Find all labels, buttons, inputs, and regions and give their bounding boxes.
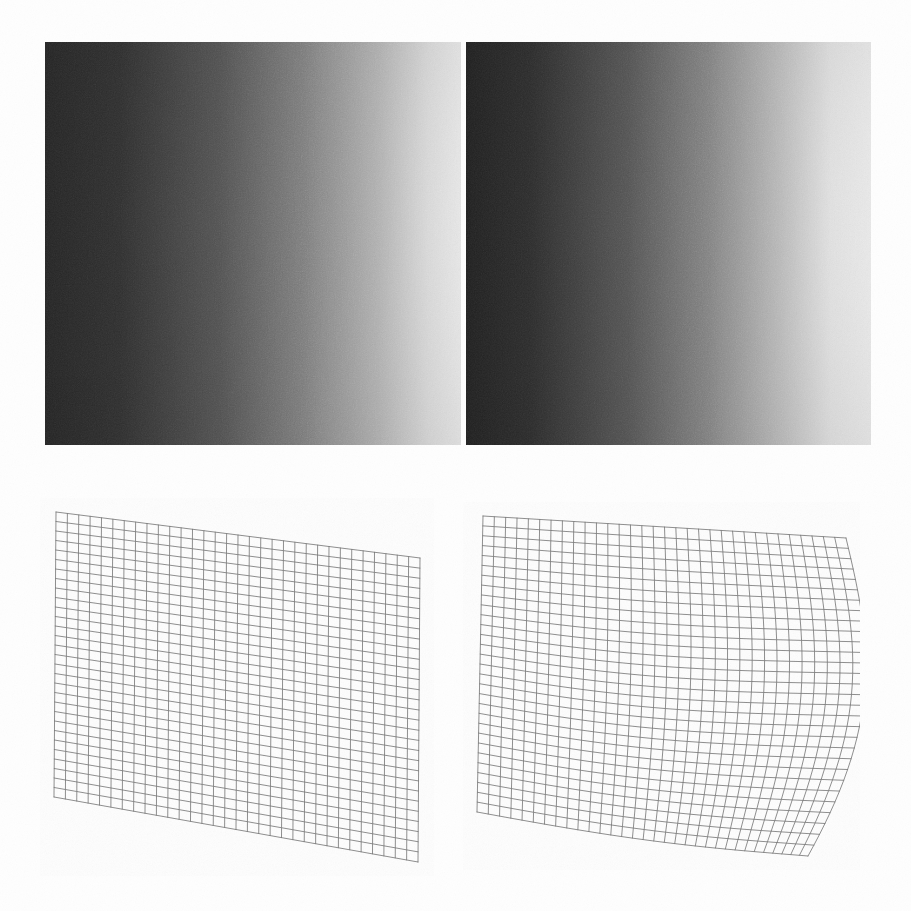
figure-root xyxy=(0,0,911,911)
shaded-image-right-panel xyxy=(466,42,871,445)
caption-ghost xyxy=(34,872,884,892)
shaded-image-left-panel xyxy=(45,42,461,445)
wireframe-mesh-left-panel xyxy=(40,498,434,876)
wireframe-mesh-right-panel xyxy=(463,502,860,870)
